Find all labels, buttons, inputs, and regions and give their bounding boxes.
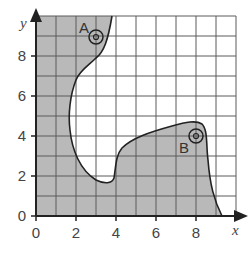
graph: 0 2 4 6 8 0 2 4 6 8 x y A B	[0, 0, 249, 253]
y-tick-4: 4	[18, 127, 26, 144]
x-tick-4: 4	[112, 224, 120, 241]
y-tick-0: 0	[18, 207, 26, 224]
x-tick-0: 0	[32, 224, 40, 241]
y-tick-2: 2	[18, 167, 26, 184]
x-tick-6: 6	[152, 224, 160, 241]
y-tick-8: 8	[18, 47, 26, 64]
y-axis-arrow-icon	[30, 8, 42, 22]
point-b-label: B	[179, 139, 189, 156]
x-tick-8: 8	[192, 224, 200, 241]
x-axis-label: x	[231, 222, 239, 238]
x-tick-2: 2	[72, 224, 80, 241]
y-tick-6: 6	[18, 87, 26, 104]
x-axis-arrow-icon	[234, 210, 248, 222]
point-a-label: A	[79, 19, 89, 36]
y-axis-label: y	[18, 15, 27, 31]
